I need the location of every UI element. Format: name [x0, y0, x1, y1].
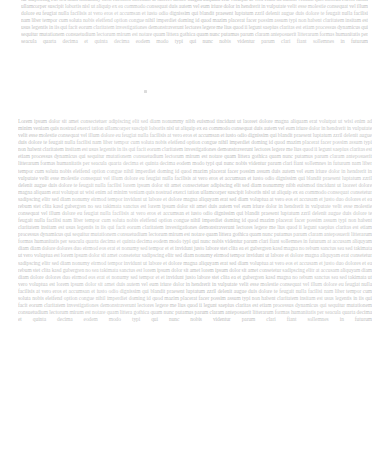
scan-speck — [144, 90, 147, 93]
upper-paragraph: tur adipiscing elit sed diam nonummy nib… — [21, 0, 368, 78]
scanned-page: tur adipiscing elit sed diam nonummy nib… — [0, 0, 391, 455]
lower-paragraph: Lorem ipsum dolor sit amet consectetuer … — [18, 118, 372, 444]
